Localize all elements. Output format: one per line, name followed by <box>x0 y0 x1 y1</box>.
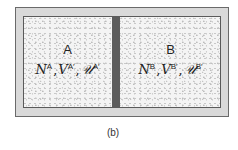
var-n: N <box>35 62 46 77</box>
separator: , <box>53 62 57 77</box>
var-u-sup: A′ <box>93 62 100 71</box>
figure-caption: (b) <box>0 127 226 138</box>
var-n-sup: A <box>47 62 52 71</box>
chamber-a: A NA,VA′,𝒰A′ <box>23 16 112 108</box>
var-n-sup: B <box>150 62 155 71</box>
partition-wall <box>112 16 120 108</box>
var-u-sup: B′ <box>196 62 203 71</box>
separator: , <box>179 62 183 77</box>
var-u: 𝒰 <box>81 62 93 77</box>
chamber-a-label: A <box>63 43 72 57</box>
chamber-b: B NB,VB′,𝒰B′ <box>120 16 221 108</box>
var-u: 𝒰 <box>184 62 196 77</box>
var-v: V <box>161 62 170 77</box>
var-v-sup: A′ <box>68 62 75 71</box>
var-v-sup: B′ <box>171 62 178 71</box>
chamber-a-variables: NA,VA′,𝒰A′ <box>35 63 99 77</box>
separator: , <box>76 62 80 77</box>
chamber-b-variables: NB,VB′,𝒰B′ <box>138 63 202 77</box>
var-v: V <box>58 62 67 77</box>
separator: , <box>156 62 160 77</box>
chamber-b-label: B <box>166 43 175 57</box>
var-n: N <box>138 62 149 77</box>
